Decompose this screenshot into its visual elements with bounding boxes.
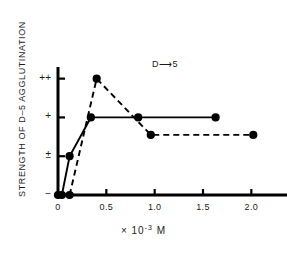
series-line-dashed	[70, 79, 254, 195]
agglutination-chart: STRENGTH OF D–5 AGGLUTINATION × 10-3 M D…	[0, 0, 287, 254]
data-series-layer	[54, 75, 257, 200]
x-tick-label-1: 0.5	[91, 202, 121, 212]
axis-ticks	[58, 79, 251, 195]
x-axis-label: × 10-3 M	[0, 224, 287, 236]
data-point	[147, 131, 155, 139]
y-tick-label-plus: +	[29, 111, 51, 121]
x-tick-label-2: 1.0	[140, 202, 170, 212]
x-axis-label-exponent: -3	[145, 224, 153, 231]
y-tick-label-plusplus: ++	[29, 73, 51, 83]
data-point	[66, 191, 74, 199]
data-point	[134, 113, 142, 121]
plot-area	[0, 0, 287, 254]
x-tick-label-3: 1.5	[188, 202, 218, 212]
x-axis-label-suffix: M	[157, 225, 166, 236]
y-tick-label-minus: −	[29, 189, 51, 199]
data-point	[249, 131, 257, 139]
y-tick-label-plusminus: ±	[29, 150, 51, 160]
x-tick-label-4: 2.0	[236, 202, 266, 212]
data-point	[211, 113, 219, 121]
data-point	[66, 152, 74, 160]
y-axis-label: STRENGTH OF D–5 AGGLUTINATION	[17, 9, 27, 209]
data-point	[58, 191, 66, 199]
series-annotation: D⟶5	[152, 59, 178, 69]
data-point	[93, 75, 101, 83]
series-line-solid	[58, 117, 216, 195]
x-tick-label-0: 0	[43, 202, 73, 212]
x-axis-label-prefix: × 10	[121, 225, 145, 236]
